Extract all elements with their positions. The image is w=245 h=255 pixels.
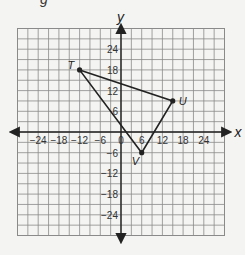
y-tick-label: −12 <box>101 168 118 179</box>
x-tick-label: −24 <box>30 135 47 146</box>
y-tick-label: 12 <box>107 86 119 97</box>
y-axis-label: y <box>116 9 125 25</box>
vertex-u-label: U <box>179 95 187 107</box>
x-tick-label: 18 <box>178 135 190 146</box>
y-tick-label: −18 <box>101 189 118 200</box>
x-tick-label: 12 <box>157 135 169 146</box>
x-tick-label: 6 <box>139 135 145 146</box>
vertex-v-label: V <box>132 155 141 167</box>
y-tick-label: 24 <box>107 44 119 55</box>
vertex-t-dot <box>77 67 82 72</box>
coordinate-plane: xy −24−18−12−6061218242418126−6−12−18−24… <box>0 0 245 255</box>
vertex-v-dot <box>139 150 144 155</box>
vertex-points: TUV <box>68 59 187 167</box>
y-tick-label: 18 <box>107 65 119 76</box>
x-tick-label: −6 <box>95 135 107 146</box>
x-tick-label: 0 <box>118 135 124 146</box>
vertex-t-label: T <box>68 59 76 71</box>
x-tick-label: −12 <box>71 135 88 146</box>
x-tick-label: 24 <box>198 135 210 146</box>
vertex-u-dot <box>170 98 175 103</box>
x-tick-label: −18 <box>50 135 67 146</box>
y-tick-label: −6 <box>107 148 119 159</box>
x-axis-label: x <box>234 124 243 140</box>
axes: xy <box>12 9 243 242</box>
y-tick-label: −24 <box>101 210 118 221</box>
